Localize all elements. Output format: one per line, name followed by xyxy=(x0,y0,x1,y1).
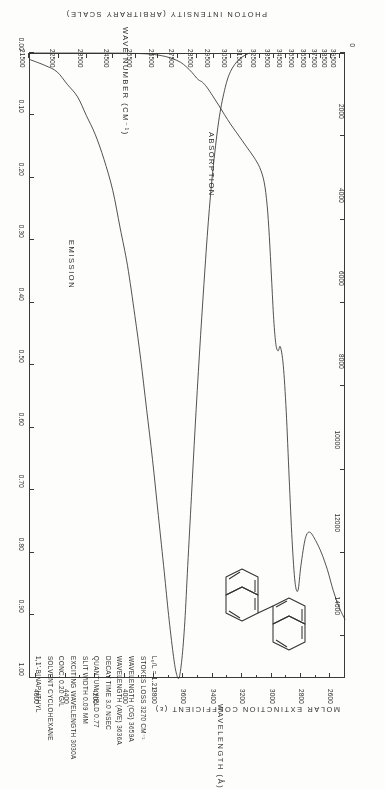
annotation-line: QUANTUM YIELD 0.77 xyxy=(93,656,100,728)
annotation-line: DECAY TIME 3.0 NSEC xyxy=(105,656,112,730)
annotation-line: SOLVENT CYCLOHEXANE xyxy=(47,656,54,741)
annotation-line: WAVELENGTH (AVE) 3636A xyxy=(116,656,123,745)
annotation-line: 1,1'-BINAPHTHYL xyxy=(35,656,42,713)
absorption-series-label: ABSORPTION xyxy=(207,132,216,197)
emission-series-label: EMISSION xyxy=(67,241,76,290)
annotation-line: L₀/L = 1.21 xyxy=(151,656,158,690)
binaphthyl-structure-icon xyxy=(213,540,333,660)
annotation-line: EXCITING WAVELENGTH 3030A xyxy=(70,656,77,760)
annotation-line: CONC. 0.20 G/L xyxy=(58,656,65,707)
annotation-line: STOKES LOSS 3270 CM⁻¹ xyxy=(140,656,147,740)
absorption-curve xyxy=(29,53,345,620)
annotation-line: WAVELENGTH (CG) 3659A xyxy=(128,656,135,742)
annotation-line: SLIT WIDTH 0.09 MM xyxy=(82,656,89,724)
